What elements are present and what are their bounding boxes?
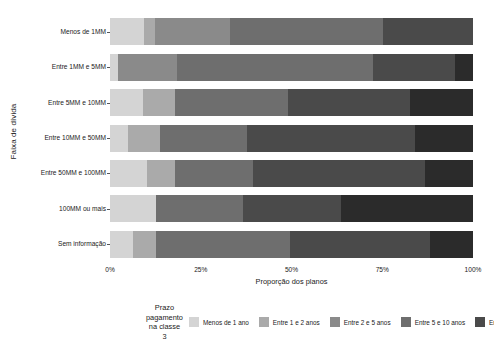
bar-segment <box>110 160 147 187</box>
bar-segment <box>175 89 288 116</box>
legend-swatch-icon <box>330 317 340 327</box>
bar-segment <box>156 231 290 258</box>
y-axis-tick-4: Entre 10MM e 50MM <box>20 134 106 142</box>
stacked-bar-chart: Faixa de dívida Menos de 1MMEntre 1MM e … <box>0 0 494 345</box>
x-axis-tick-4: 75% <box>376 266 389 273</box>
bar-row <box>110 231 473 258</box>
bar-row <box>110 195 473 222</box>
bar-row <box>110 89 473 116</box>
bar-segment <box>110 54 118 81</box>
legend-title: Prazo pagamentona classe 3 <box>146 303 189 341</box>
plot-area <box>110 14 473 262</box>
bar-row <box>110 125 473 152</box>
bar-segment <box>143 89 175 116</box>
bar-segment <box>430 231 473 258</box>
bar-segment <box>415 125 473 152</box>
y-axis-tick-1: Menos de 1MM <box>20 28 106 36</box>
bar-segment <box>175 160 253 187</box>
bar-segment <box>118 54 177 81</box>
y-axis-tick-labels: Menos de 1MMEntre 1MM e 5MMEntre 5MM e 1… <box>14 14 106 262</box>
legend-swatch-icon <box>259 317 269 327</box>
legend-title-line-1: Prazo pagamento <box>146 303 183 322</box>
y-axis-tick-6: 100MM ou mais <box>20 205 106 213</box>
legend-label: Entre 2 e 5 anos <box>344 319 391 326</box>
y-axis-tick-7: Sem informação <box>20 240 106 248</box>
legend-item-1[interactable]: Menos de 1 ano <box>189 315 249 329</box>
bar-segment <box>160 125 247 152</box>
legend-swatch-icon <box>475 317 485 327</box>
bar-segment <box>110 89 143 116</box>
bar-segment <box>410 89 473 116</box>
legend-label: Entre 10 e 15 anos <box>489 319 494 326</box>
bar-segment <box>110 195 156 222</box>
bar-segment <box>243 195 341 222</box>
bar-segment <box>230 18 383 45</box>
legend: Prazo pagamentona classe 3 Menos de 1 an… <box>146 306 476 338</box>
legend-label: Entre 1 e 2 anos <box>273 319 320 326</box>
legend-item-4[interactable]: Entre 5 e 10 anos <box>401 315 465 329</box>
x-axis-tick-5: 100% <box>465 266 482 273</box>
bar-segment <box>133 231 156 258</box>
legend-label: Entre 5 e 10 anos <box>415 319 465 326</box>
bar-segment <box>156 195 243 222</box>
x-axis-tick-3: 50% <box>285 266 298 273</box>
x-axis-tick-1: 0% <box>105 266 115 273</box>
bar-row <box>110 18 473 45</box>
bar-segment <box>147 160 175 187</box>
bar-segment <box>373 54 455 81</box>
legend-swatch-icon <box>401 317 411 327</box>
legend-item-5[interactable]: Entre 10 e 15 anos <box>475 315 494 329</box>
legend-item-3[interactable]: Entre 2 e 5 anos <box>330 315 391 329</box>
bar-segment <box>253 160 425 187</box>
bar-segment <box>383 18 473 45</box>
x-axis-tick-2: 25% <box>194 266 207 273</box>
bar-segment <box>290 231 430 258</box>
bar-row <box>110 54 473 81</box>
x-axis-title: Proporção dos planos <box>110 277 473 286</box>
bar-segment <box>155 18 230 45</box>
legend-items: Menos de 1 anoEntre 1 e 2 anosEntre 2 e … <box>189 315 494 329</box>
y-axis-tick-2: Entre 1MM e 5MM <box>20 63 106 71</box>
legend-title-line-2: na classe 3 <box>146 322 183 341</box>
bar-segment <box>144 18 155 45</box>
bar-segment <box>177 54 373 81</box>
bar-segment <box>110 18 144 45</box>
legend-label: Menos de 1 ano <box>203 319 249 326</box>
y-axis-tick-3: Entre 5MM e 10MM <box>20 99 106 107</box>
bar-segment <box>247 125 415 152</box>
bar-segment <box>425 160 473 187</box>
y-axis-tick-5: Entre 50MM e 100MM <box>20 169 106 177</box>
bar-segment <box>288 89 410 116</box>
bar-segment <box>110 125 128 152</box>
legend-item-2[interactable]: Entre 1 e 2 anos <box>259 315 320 329</box>
bar-segment <box>128 125 160 152</box>
legend-swatch-icon <box>189 317 199 327</box>
bar-segment <box>341 195 473 222</box>
bar-segment <box>110 231 133 258</box>
bar-segment <box>455 54 473 81</box>
bar-row <box>110 160 473 187</box>
